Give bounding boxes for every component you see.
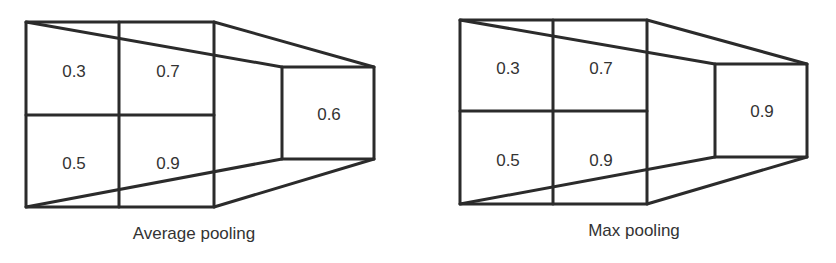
diagram-caption: Max pooling <box>588 221 680 240</box>
output-value: 0.6 <box>317 105 341 124</box>
output-value: 0.9 <box>750 102 774 121</box>
diagram-caption: Average pooling <box>133 224 256 243</box>
grid-cell: 0.3 <box>496 59 520 78</box>
grid-cell: 0.7 <box>589 59 613 78</box>
output-cell: 0.9 <box>715 64 807 157</box>
projection-line-top-left <box>26 22 282 67</box>
output-cell: 0.6 <box>282 67 374 159</box>
grid-cell: 0.9 <box>156 154 180 173</box>
grid-cell: 0.3 <box>62 62 86 81</box>
grid-cell: 0.7 <box>156 62 180 81</box>
projection-line-top-left <box>460 20 715 64</box>
grid-cell: 0.9 <box>589 151 613 170</box>
max-pooling-diagram: 0.3 0.7 0.5 0.9 0.9 Max pooling <box>460 20 807 240</box>
pooling-figure: 0.3 0.7 0.5 0.9 0.6 Average pooling 0.3 … <box>0 0 836 263</box>
grid-cell: 0.5 <box>496 151 520 170</box>
grid-cell: 0.5 <box>62 154 86 173</box>
average-pooling-diagram: 0.3 0.7 0.5 0.9 0.6 Average pooling <box>26 22 374 243</box>
